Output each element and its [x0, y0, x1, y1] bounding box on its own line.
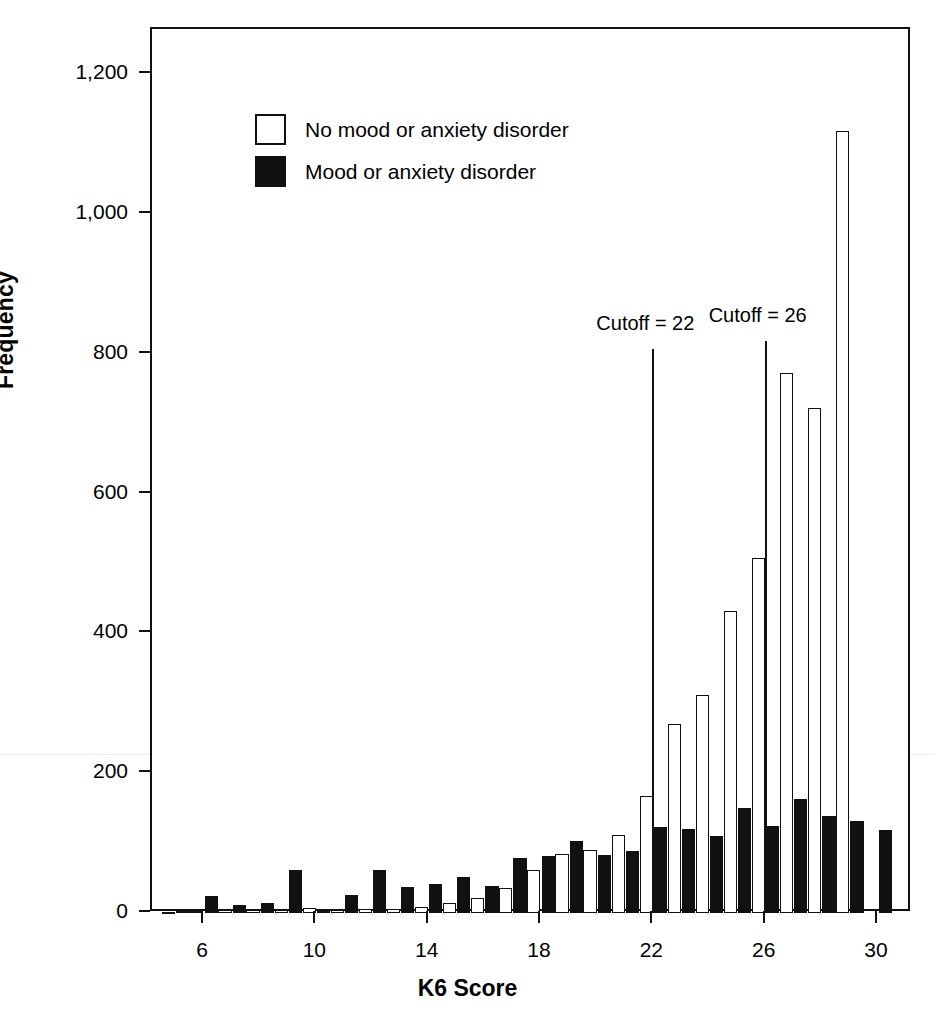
cutoff-22-label: Cutoff = 22 [596, 313, 694, 333]
legend-item-no-disorder: No mood or anxiety disorder [255, 108, 569, 150]
bar-no-disorder-22 [640, 796, 653, 913]
bar-no-disorder-24 [696, 695, 709, 913]
x-tick-label: 22 [621, 939, 681, 960]
y-tick-mark [139, 910, 150, 912]
x-tick-label: 10 [284, 939, 344, 960]
bar-disorder-16 [485, 886, 498, 913]
y-tick-mark [139, 71, 150, 73]
bar-disorder-10 [317, 909, 330, 913]
bar-no-disorder-19 [555, 854, 568, 913]
y-tick-mark [139, 491, 150, 493]
bar-disorder-17 [513, 858, 526, 913]
bar-no-disorder-26 [752, 558, 765, 913]
x-tick-mark [650, 911, 652, 923]
bar-disorder-15 [457, 877, 470, 913]
bar-no-disorder-12 [359, 909, 372, 913]
bar-no-disorder-28 [808, 408, 821, 913]
bar-no-disorder-9 [275, 910, 288, 913]
bar-disorder-11 [345, 895, 358, 913]
bar-disorder-9 [289, 870, 302, 913]
x-tick-label: 30 [846, 939, 906, 960]
y-tick-mark [139, 770, 150, 772]
bar-disorder-27 [794, 799, 807, 913]
bar-no-disorder-16 [471, 898, 484, 913]
x-tick-label: 14 [397, 939, 457, 960]
bar-disorder-18 [542, 856, 555, 913]
x-tick-label: 26 [734, 939, 794, 960]
y-tick-label: 0 [38, 900, 128, 921]
x-tick-mark [763, 911, 765, 923]
bar-no-disorder-23 [668, 724, 681, 913]
y-tick-label: 1,000 [38, 201, 128, 222]
bar-disorder-29 [850, 821, 863, 913]
y-tick-mark [139, 630, 150, 632]
x-tick-label: 6 [172, 939, 232, 960]
bar-disorder-5 [176, 911, 189, 913]
cutoff-26-line [765, 341, 767, 913]
bar-disorder-6 [205, 896, 218, 913]
x-tick-mark [313, 911, 315, 923]
bar-disorder-19 [570, 841, 583, 913]
bar-disorder-26 [766, 826, 779, 913]
bar-no-disorder-15 [443, 903, 456, 913]
bar-no-disorder-25 [724, 611, 737, 913]
bar-no-disorder-29 [836, 131, 849, 913]
bar-no-disorder-11 [331, 910, 344, 913]
x-tick-mark [201, 911, 203, 923]
bar-disorder-7 [233, 905, 246, 913]
legend-swatch-white-icon [255, 114, 286, 145]
bar-disorder-28 [822, 816, 835, 913]
legend-label-disorder: Mood or anxiety disorder [305, 161, 536, 182]
y-tick-mark [139, 351, 150, 353]
y-tick-label: 600 [38, 481, 128, 502]
k6-score-frequency-chart: Frequency 1,2001,0008006004002000 Cutoff… [0, 0, 935, 1029]
cutoff-26-label: Cutoff = 26 [709, 305, 807, 325]
bar-disorder-25 [738, 808, 751, 913]
bar-disorder-14 [429, 884, 442, 913]
y-tick-mark [139, 211, 150, 213]
bar-disorder-21 [626, 851, 639, 913]
y-tick-label: 1,200 [38, 61, 128, 82]
bar-disorder-22 [654, 827, 667, 913]
bar-disorder-31 [879, 830, 892, 913]
y-tick-label: 400 [38, 620, 128, 641]
cutoff-22-line [652, 349, 654, 913]
bar-no-disorder-8 [246, 910, 259, 913]
bar-no-disorder-27 [780, 373, 793, 913]
x-tick-mark [426, 911, 428, 923]
y-tick-label: 200 [38, 760, 128, 781]
bar-disorder-24 [710, 836, 723, 913]
bar-disorder-13 [401, 887, 414, 913]
chart-legend: No mood or anxiety disorder Mood or anxi… [255, 108, 569, 192]
bar-no-disorder-21 [612, 835, 625, 913]
x-tick-label: 18 [509, 939, 569, 960]
legend-swatch-black-icon [255, 156, 286, 187]
bar-no-disorder-5 [162, 912, 175, 914]
x-tick-mark [538, 911, 540, 923]
legend-label-no-disorder: No mood or anxiety disorder [305, 119, 569, 140]
legend-item-disorder: Mood or anxiety disorder [255, 150, 569, 192]
bar-no-disorder-17 [499, 888, 512, 913]
bar-no-disorder-20 [583, 850, 596, 913]
y-tick-label: 800 [38, 341, 128, 362]
bar-no-disorder-13 [387, 909, 400, 913]
bar-no-disorder-7 [218, 910, 231, 913]
bar-disorder-8 [261, 903, 274, 913]
bar-disorder-23 [682, 829, 695, 913]
y-axis-title: Frequency [0, 220, 19, 440]
bar-disorder-12 [373, 870, 386, 913]
x-tick-mark [875, 911, 877, 923]
bar-disorder-20 [598, 855, 611, 913]
x-axis-title: K6 Score [0, 975, 935, 1002]
bar-no-disorder-18 [527, 870, 540, 913]
